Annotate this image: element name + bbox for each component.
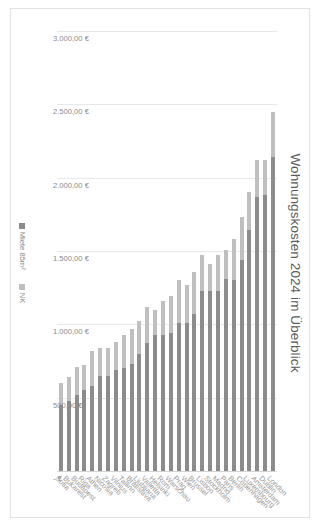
value-axis-tick-label: 1.000,00 € xyxy=(53,327,89,336)
bar-row[interactable] xyxy=(185,31,189,471)
value-axis-tick-label: 500,00 € xyxy=(53,401,83,410)
bar-segment-miete[interactable] xyxy=(263,195,267,471)
bar-segment-miete[interactable] xyxy=(130,364,134,471)
bar-segment-nk[interactable] xyxy=(208,264,212,290)
bar-segment-nk[interactable] xyxy=(130,329,134,364)
bar-segment-nk[interactable] xyxy=(224,250,228,279)
bar-segment-nk[interactable] xyxy=(248,192,252,230)
bar-segment-miete[interactable] xyxy=(200,291,204,471)
bar-segment-miete[interactable] xyxy=(185,323,189,471)
bar-segment-nk[interactable] xyxy=(67,377,71,400)
gridline xyxy=(57,471,277,472)
bar-segment-miete[interactable] xyxy=(248,230,252,471)
bar-segment-miete[interactable] xyxy=(240,260,244,471)
bar-row[interactable] xyxy=(224,31,228,471)
bar-segment-nk[interactable] xyxy=(145,307,149,344)
bar-segment-miete[interactable] xyxy=(138,354,142,471)
legend-item[interactable]: Miete 85m² xyxy=(18,223,27,270)
value-axis-tick-label: 3.000,00 € xyxy=(53,34,89,43)
bar-segment-nk[interactable] xyxy=(263,160,267,195)
bars-container xyxy=(57,31,277,471)
bar-segment-nk[interactable] xyxy=(255,160,259,197)
chart-rotated-canvas: Wohnungskosten 2024 im Überblick 3.000,0… xyxy=(11,9,309,517)
bar-row[interactable] xyxy=(232,31,236,471)
value-axis-tick-label: 1.500,00 € xyxy=(53,254,89,263)
bar-row[interactable] xyxy=(208,31,212,471)
bar-row[interactable] xyxy=(98,31,102,471)
bar-segment-miete[interactable] xyxy=(153,335,157,471)
bar-row[interactable] xyxy=(130,31,134,471)
bar-segment-nk[interactable] xyxy=(232,239,236,280)
bar-row[interactable] xyxy=(240,31,244,471)
bar-segment-miete[interactable] xyxy=(224,279,228,471)
legend-item[interactable]: NK xyxy=(18,284,27,304)
bar-row[interactable] xyxy=(255,31,259,471)
bar-segment-nk[interactable] xyxy=(185,285,189,323)
bar-segment-miete[interactable] xyxy=(106,376,110,471)
bar-row[interactable] xyxy=(263,31,267,471)
bar-row[interactable] xyxy=(114,31,118,471)
bar-segment-nk[interactable] xyxy=(98,348,102,376)
bar-segment-nk[interactable] xyxy=(90,351,94,386)
value-axis-tick-label: 2.500,00 € xyxy=(53,107,89,116)
bar-row[interactable] xyxy=(83,31,87,471)
bar-row[interactable] xyxy=(145,31,149,471)
bar-segment-nk[interactable] xyxy=(161,301,165,335)
bar-segment-miete[interactable] xyxy=(177,323,181,471)
legend-swatch-icon xyxy=(19,284,25,290)
legend-label: NK xyxy=(18,293,27,304)
bar-segment-nk[interactable] xyxy=(169,296,173,333)
bar-segment-nk[interactable] xyxy=(75,367,79,395)
legend-swatch-icon xyxy=(19,223,25,229)
bar-segment-nk[interactable] xyxy=(193,272,197,315)
bar-row[interactable] xyxy=(271,31,275,471)
value-axis-tick-label: 2.000,00 € xyxy=(53,181,89,190)
chart-legend: Miete 85m²NK xyxy=(18,9,27,517)
bar-row[interactable] xyxy=(169,31,173,471)
bar-segment-miete[interactable] xyxy=(67,401,71,471)
legend-label: Miete 85m² xyxy=(18,232,27,270)
bar-segment-miete[interactable] xyxy=(232,280,236,471)
bar-segment-nk[interactable] xyxy=(138,321,142,353)
bar-segment-nk[interactable] xyxy=(177,280,181,323)
bar-segment-nk[interactable] xyxy=(122,335,126,369)
bar-segment-nk[interactable] xyxy=(200,255,204,290)
bar-segment-miete[interactable] xyxy=(59,405,63,471)
bar-row[interactable] xyxy=(153,31,157,471)
chart-title: Wohnungskosten 2024 im Überblick xyxy=(288,9,303,517)
plot-area xyxy=(57,31,277,471)
bar-segment-nk[interactable] xyxy=(240,217,244,260)
bar-row[interactable] xyxy=(177,31,181,471)
bar-row[interactable] xyxy=(161,31,165,471)
bar-row[interactable] xyxy=(200,31,204,471)
bar-row[interactable] xyxy=(106,31,110,471)
bar-segment-miete[interactable] xyxy=(193,314,197,471)
bar-row[interactable] xyxy=(216,31,220,471)
bar-segment-miete[interactable] xyxy=(161,335,165,471)
bar-segment-miete[interactable] xyxy=(98,376,102,471)
bar-row[interactable] xyxy=(90,31,94,471)
bar-segment-miete[interactable] xyxy=(169,333,173,471)
bar-segment-nk[interactable] xyxy=(106,348,110,376)
bar-segment-miete[interactable] xyxy=(90,386,94,471)
bar-segment-nk[interactable] xyxy=(83,365,87,390)
bar-segment-nk[interactable] xyxy=(216,255,220,290)
bar-row[interactable] xyxy=(122,31,126,471)
bar-segment-nk[interactable] xyxy=(114,342,118,370)
bar-segment-nk[interactable] xyxy=(271,112,275,157)
bar-segment-miete[interactable] xyxy=(114,370,118,471)
bar-segment-miete[interactable] xyxy=(83,390,87,471)
bar-row[interactable] xyxy=(248,31,252,471)
bar-row[interactable] xyxy=(138,31,142,471)
bar-segment-nk[interactable] xyxy=(153,310,157,335)
chart-page: Wohnungskosten 2024 im Überblick 3.000,0… xyxy=(0,0,320,526)
bar-segment-miete[interactable] xyxy=(216,291,220,471)
bar-segment-miete[interactable] xyxy=(208,291,212,471)
bar-segment-miete[interactable] xyxy=(271,157,275,471)
bar-segment-miete[interactable] xyxy=(122,368,126,471)
bar-segment-miete[interactable] xyxy=(255,197,259,471)
chart-frame: Wohnungskosten 2024 im Überblick 3.000,0… xyxy=(10,8,310,518)
bar-row[interactable] xyxy=(193,31,197,471)
bar-segment-miete[interactable] xyxy=(145,343,149,471)
